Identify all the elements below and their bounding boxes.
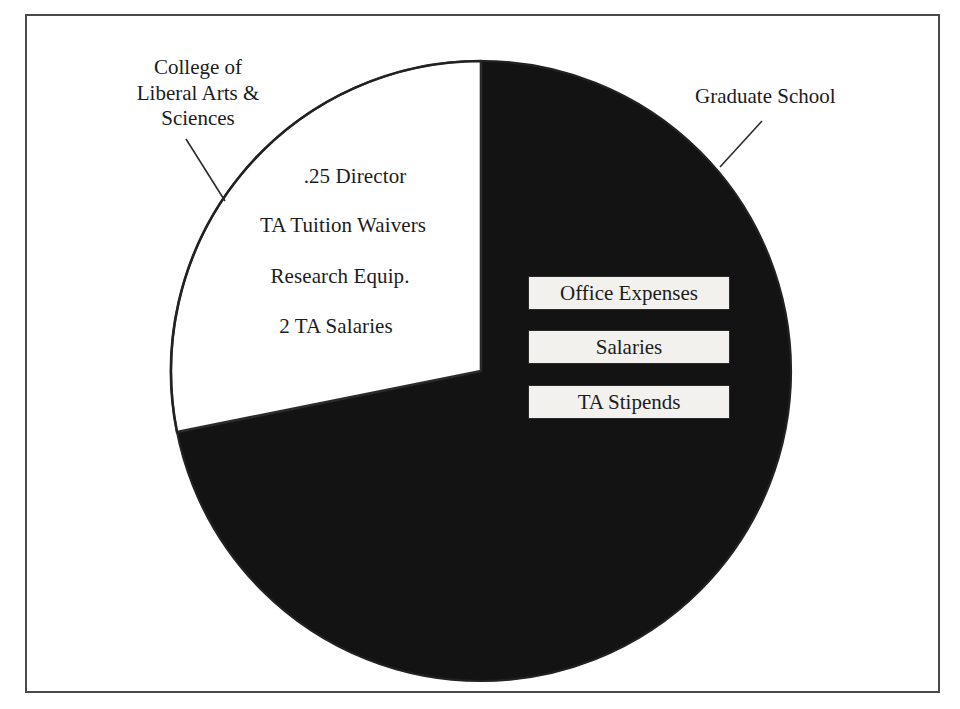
callout-graduate-school: Graduate School [695, 84, 836, 110]
leader-line-liberal-arts [186, 139, 225, 201]
white-slice-item-research-equip: Research Equip. [270, 265, 409, 288]
leader-line-graduate-school [720, 121, 762, 167]
callout-liberal-arts-line3: Sciences [118, 106, 278, 132]
white-slice-item-ta-salaries: 2 TA Salaries [279, 315, 393, 338]
dark-slice-box-salaries: Salaries [528, 330, 730, 364]
callout-liberal-arts-line2: Liberal Arts & [118, 81, 278, 107]
white-slice-item-ta-tuition-waivers: TA Tuition Waivers [260, 214, 426, 237]
dark-slice-box-office-expenses: Office Expenses [528, 276, 730, 310]
callout-liberal-arts: College of Liberal Arts & Sciences [118, 55, 278, 132]
callout-liberal-arts-line1: College of [118, 55, 278, 81]
pie-chart-figure: College of Liberal Arts & Sciences Gradu… [0, 0, 960, 709]
dark-slice-box-ta-stipends: TA Stipends [528, 385, 730, 419]
white-slice-item-director: .25 Director [304, 165, 407, 188]
